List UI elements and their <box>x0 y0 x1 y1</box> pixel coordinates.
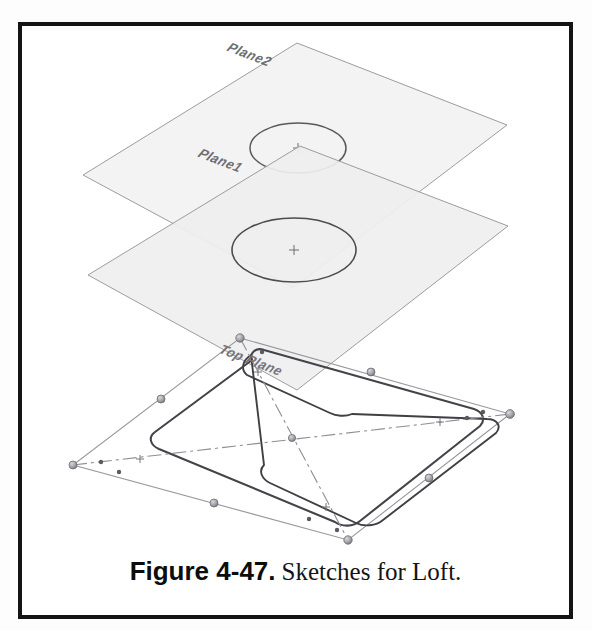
figure-description: Sketches for Loft. <box>282 558 462 585</box>
figure-border-frame <box>18 22 573 619</box>
figure-caption: Figure 4-47.Sketches for Loft. <box>18 556 573 587</box>
figure-number: Figure 4-47. <box>130 556 276 586</box>
figure-page: Plane2 Plane1 Top Plane Figure 4-47.Sket… <box>0 0 592 631</box>
